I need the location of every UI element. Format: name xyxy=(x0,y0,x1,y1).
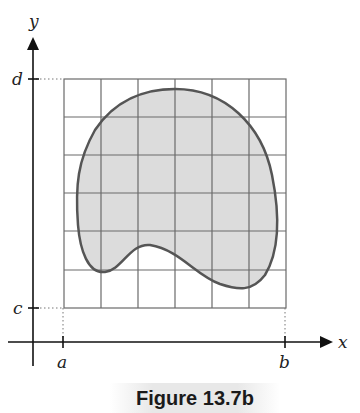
label-d: d xyxy=(12,69,23,89)
x-axis-arrow-icon xyxy=(320,336,333,348)
x-axis-label: x xyxy=(338,332,348,352)
y-axis-label: y xyxy=(28,11,39,31)
label-a: a xyxy=(57,352,67,372)
figure-caption: Figure 13.7b xyxy=(110,383,280,413)
figure-diagram: y x d c a b xyxy=(0,0,360,413)
region-shape xyxy=(77,89,277,288)
label-c: c xyxy=(13,298,23,318)
label-b: b xyxy=(279,352,290,372)
y-axis-arrow-icon xyxy=(27,37,39,50)
